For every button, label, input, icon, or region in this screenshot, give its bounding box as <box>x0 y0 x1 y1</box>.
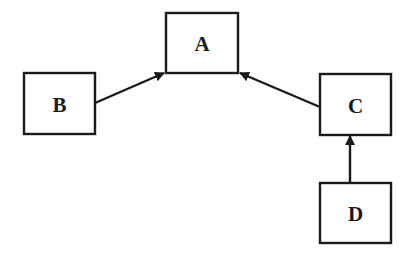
edge-c-to-a-arrow <box>240 73 320 107</box>
diagram-canvas: ABCD <box>0 0 413 258</box>
node-b: B <box>24 73 95 134</box>
node-d-label: D <box>348 202 363 226</box>
nodes-group: ABCD <box>24 13 391 243</box>
node-c: C <box>320 74 391 135</box>
edge-b-to-a-arrow <box>95 73 164 103</box>
node-c-label: C <box>348 94 363 118</box>
node-a: A <box>166 13 238 73</box>
node-d: D <box>320 183 391 243</box>
edges-group <box>95 73 350 183</box>
node-b-label: B <box>52 93 66 117</box>
node-a-label: A <box>194 32 210 56</box>
